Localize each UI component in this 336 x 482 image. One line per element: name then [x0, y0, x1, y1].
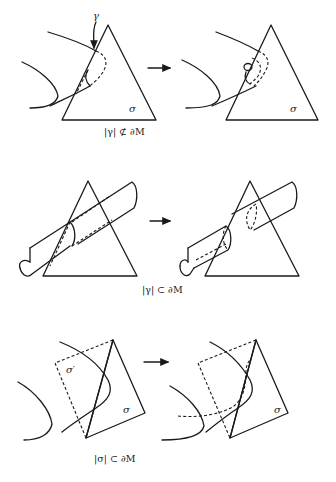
surface-curve-upper [60, 342, 110, 432]
surface-curve-upper [48, 32, 96, 51]
simplex-triangle [205, 181, 299, 276]
hidden-cross-section-right [247, 204, 257, 230]
shared-edge [86, 340, 113, 438]
label-sigma: σ [290, 103, 298, 114]
label-sigma: σ [129, 103, 137, 114]
label-gamma: γ [93, 10, 99, 21]
panel-1-left: γ σ [22, 10, 156, 120]
surface-curve-lower [162, 386, 204, 440]
simplex-triangle [226, 25, 318, 120]
cylinder-upper-part [232, 182, 297, 230]
panel-2-left [20, 181, 137, 276]
surface-curve-lower [18, 382, 52, 440]
simplex-sigma [230, 340, 288, 438]
simplex-sigma-prime [198, 340, 256, 438]
surface-curve-upper [216, 32, 258, 51]
panel-3-left: σ′ σ [18, 340, 145, 440]
caption-panel-1: |γ| ⊄ ∂M [104, 126, 145, 138]
surface-curve-upper [206, 342, 252, 432]
curve-gamma-dashed-inner [250, 58, 260, 84]
panel-1-right: σ [182, 25, 318, 120]
label-sigma: σ [274, 404, 282, 415]
panel-2-right [180, 181, 299, 276]
cylinder-end-cap [180, 260, 188, 266]
deformed-curve-dashed [178, 360, 250, 417]
hidden-edge-2 [72, 196, 110, 222]
diagram-canvas: γ σ σ |γ| ⊄ ∂M |γ| ⊂ ∂M [0, 0, 336, 482]
caption-panel-2: |γ| ⊂ ∂M [142, 284, 183, 296]
label-sigma: σ [123, 404, 131, 415]
cylinder-lower-part [188, 226, 231, 268]
label-sigma-prime: σ′ [66, 364, 76, 375]
gamma-pointer-arrow [94, 22, 97, 48]
panel-3-right: σ [162, 340, 288, 440]
simplex-triangle [43, 181, 137, 276]
cylinder-cross-section [70, 222, 75, 246]
hidden-edge-3 [72, 220, 112, 246]
simplex-triangle [62, 25, 156, 120]
surface-curve-lower [22, 62, 58, 108]
caption-panel-3: |σ| ⊂ ∂M [94, 453, 136, 465]
surface-curve-lower [182, 60, 220, 108]
cylinder-lower-edge [180, 248, 194, 276]
hidden-edge [196, 244, 226, 260]
cylinder-end-cap [20, 260, 30, 268]
simplex-sigma [86, 340, 145, 438]
